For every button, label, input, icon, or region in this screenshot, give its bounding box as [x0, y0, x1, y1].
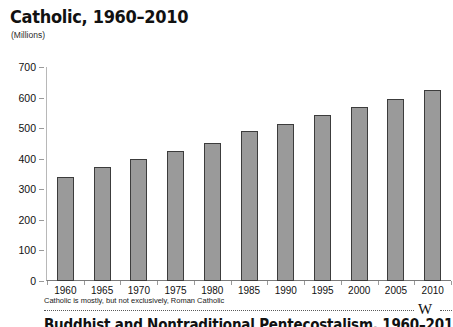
w-marker-icon: W	[418, 301, 432, 318]
y-axis-tick	[39, 281, 44, 282]
bar	[351, 107, 368, 281]
x-axis-tick-label: 1980	[194, 285, 231, 296]
bar	[94, 167, 111, 281]
x-axis-tick-label: 1990	[267, 285, 304, 296]
bar-slot	[304, 67, 341, 281]
x-axis-tick-label: 2000	[341, 285, 378, 296]
bar	[314, 115, 331, 281]
y-axis-tick-label: 700	[18, 62, 36, 73]
bar-slot	[84, 67, 121, 281]
bar	[130, 159, 147, 281]
x-axis-tick-label: 1995	[304, 285, 341, 296]
y-axis-tick-label: 100	[18, 245, 36, 256]
chart-title: Catholic, 1960–2010	[10, 6, 188, 27]
next-section-heading-text: Buddhist and Nontraditional Pentecostali…	[44, 318, 453, 327]
y-axis-tick	[39, 159, 44, 160]
chart-units-label: (Millions)	[11, 30, 45, 40]
bar	[204, 143, 221, 281]
bar-slot	[157, 67, 194, 281]
y-axis-tick-label: 200	[18, 215, 36, 226]
bar	[167, 151, 184, 281]
bar-slot	[194, 67, 231, 281]
y-axis-tick-label: 600	[18, 92, 36, 103]
x-axis-tick-label: 1965	[84, 285, 121, 296]
bar-slot	[231, 67, 268, 281]
bar-slot	[378, 67, 415, 281]
y-axis: 0100200300400500600700	[0, 67, 44, 282]
y-axis-tick	[39, 250, 44, 251]
bar	[277, 124, 294, 281]
y-axis-tick-label: 500	[18, 123, 36, 134]
dotted-line-tail	[440, 310, 452, 311]
y-axis-tick-label: 0	[30, 276, 36, 287]
bar	[241, 131, 258, 281]
y-axis-tick-label: 300	[18, 184, 36, 195]
bar	[57, 177, 74, 281]
y-axis-tick-label: 400	[18, 153, 36, 164]
y-axis-tick	[39, 220, 44, 221]
x-axis-tick	[451, 281, 452, 285]
bar-series	[47, 67, 451, 281]
x-axis-tick-label: 2005	[378, 285, 415, 296]
x-axis-tick-label: 1960	[47, 285, 84, 296]
y-axis-tick	[39, 98, 44, 99]
dotted-line	[44, 310, 414, 311]
y-axis-tick	[39, 128, 44, 129]
bar	[424, 90, 441, 281]
bar-slot	[414, 67, 451, 281]
bar-slot	[341, 67, 378, 281]
x-axis-tick-label: 1985	[231, 285, 268, 296]
y-axis-tick	[39, 67, 44, 68]
chart-footnote: Catholic is mostly, but not exclusively,…	[44, 296, 224, 305]
next-section-heading: Buddhist and Nontraditional Pentecostali…	[44, 318, 453, 327]
bar-slot	[47, 67, 84, 281]
bar-slot	[120, 67, 157, 281]
x-axis-tick-label: 2010	[414, 285, 451, 296]
x-axis-tick-label: 1970	[120, 285, 157, 296]
x-axis-tick-label: 1975	[157, 285, 194, 296]
y-axis-tick	[39, 189, 44, 190]
bar	[387, 99, 404, 282]
bar-slot	[267, 67, 304, 281]
x-axis-labels: 1960196519701975198019851990199520002005…	[47, 285, 451, 296]
